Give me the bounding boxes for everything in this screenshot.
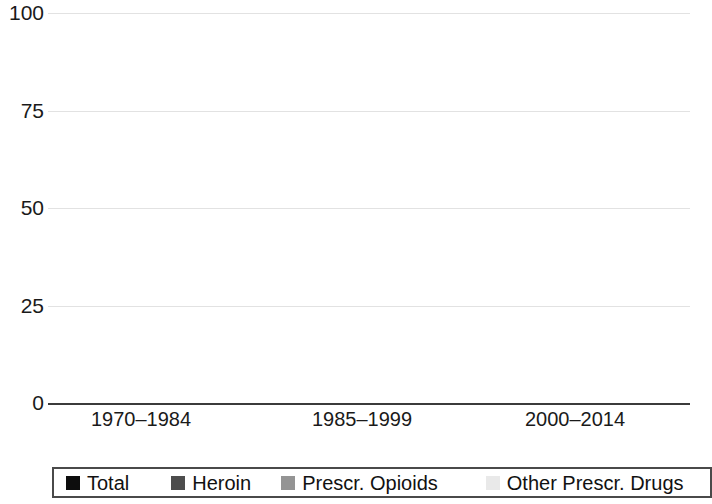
legend-item-prescr-opioids[interactable]: Prescr. Opioids [281,473,438,493]
y-tick-label-50: 50 [0,197,44,218]
legend-swatch-prescr-opioids [281,476,295,490]
legend-item-heroin[interactable]: Heroin [171,473,251,493]
x-axis-label-0: 1970–1984 [41,409,241,429]
y-tick-label-75: 75 [0,100,44,121]
x-axis-line [48,403,690,405]
gridline-25 [48,306,690,307]
y-tick-label-100: 100 [0,2,44,23]
x-axis-label-2: 2000–2014 [475,409,675,429]
y-tick-label-0: 0 [0,392,44,413]
legend-label: Heroin [192,473,251,493]
legend-label: Total [87,473,129,493]
legend-swatch-other-prescr-drugs [486,476,500,490]
gridline-50 [48,208,690,209]
plot-area: 1007550250 1970–19841985–19992000–2014 [0,0,690,450]
legend-swatch-total [66,476,80,490]
gridline-75 [48,111,690,112]
gridline-100 [48,13,690,14]
legend-item-total[interactable]: Total [66,473,129,493]
legend-label: Prescr. Opioids [302,473,438,493]
legend-label: Other Prescr. Drugs [507,473,684,493]
legend-item-other-prescr-drugs[interactable]: Other Prescr. Drugs [486,473,684,493]
y-tick-label-25: 25 [0,295,44,316]
chart-legend: TotalHeroinPrescr. OpioidsOther Prescr. … [52,467,712,498]
x-axis-label-1: 1985–1999 [262,409,462,429]
legend-swatch-heroin [171,476,185,490]
